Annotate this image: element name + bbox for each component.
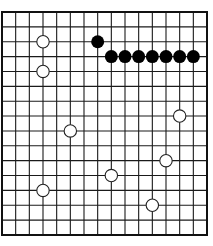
black-stone <box>91 35 104 48</box>
white-stone <box>37 184 49 196</box>
black-stone <box>105 50 118 63</box>
white-stone <box>37 36 49 48</box>
stones-layer <box>37 35 200 211</box>
white-stone <box>105 169 117 181</box>
black-stone <box>160 50 173 63</box>
board-grid <box>2 12 207 235</box>
white-stone <box>64 125 76 137</box>
black-stone <box>146 50 159 63</box>
black-stone <box>173 50 186 63</box>
game-board[interactable] <box>0 0 213 246</box>
board-border <box>2 12 207 235</box>
white-stone <box>160 154 172 166</box>
white-stone <box>173 110 185 122</box>
white-stone <box>37 65 49 77</box>
black-stone <box>132 50 145 63</box>
black-stone <box>119 50 132 63</box>
black-stone <box>187 50 200 63</box>
white-stone <box>146 199 158 211</box>
